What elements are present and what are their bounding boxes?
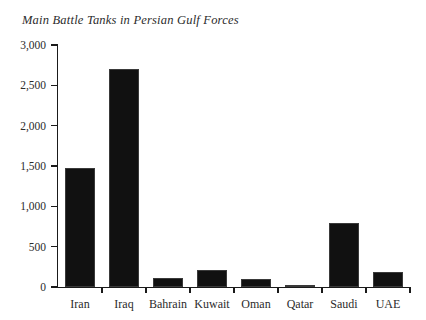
- chart-title: Main Battle Tanks in Persian Gulf Forces: [22, 13, 239, 28]
- y-tick-mark: [51, 246, 58, 247]
- bar-chart: Main Battle Tanks in Persian Gulf Forces…: [0, 0, 426, 320]
- y-tick-mark: [51, 125, 58, 126]
- y-tick-label: 1,500: [20, 160, 46, 172]
- bar-uae[interactable]: [373, 272, 404, 287]
- y-tick-label: 0: [40, 281, 46, 293]
- x-tick-mark: [189, 287, 190, 293]
- x-tick-mark: [321, 287, 322, 293]
- plot-area: [58, 45, 410, 287]
- x-tick-label-kuwait: Kuwait: [194, 297, 229, 312]
- y-tick-mark: [51, 286, 58, 287]
- x-tick-label-saudi: Saudi: [330, 297, 357, 312]
- x-tick-mark: [277, 287, 278, 293]
- x-tick-mark: [233, 287, 234, 293]
- y-tick-mark: [51, 85, 58, 86]
- y-tick-label: 3,000: [20, 39, 46, 51]
- x-tick-mark: [101, 287, 102, 293]
- bar-oman[interactable]: [241, 279, 272, 287]
- x-tick-label-uae: UAE: [376, 297, 401, 312]
- bar-saudi[interactable]: [329, 223, 360, 287]
- bar-bahrain[interactable]: [153, 278, 184, 287]
- y-tick-label: 2,500: [20, 79, 46, 91]
- y-tick-label: 500: [29, 241, 46, 253]
- y-tick-label: 2,000: [20, 120, 46, 132]
- x-tick-label-oman: Oman: [241, 297, 270, 312]
- x-tick-label-bahrain: Bahrain: [149, 297, 187, 312]
- x-tick-label-iraq: Iraq: [114, 297, 133, 312]
- bar-kuwait[interactable]: [197, 270, 228, 287]
- y-tick-mark: [51, 206, 58, 207]
- y-tick-mark: [51, 44, 58, 45]
- y-tick-mark: [51, 165, 58, 166]
- bar-qatar[interactable]: [285, 285, 316, 287]
- x-tick-label-qatar: Qatar: [287, 297, 314, 312]
- x-tick-mark: [145, 287, 146, 293]
- bar-iran[interactable]: [65, 168, 96, 287]
- bar-iraq[interactable]: [109, 69, 140, 287]
- x-tick-mark: [365, 287, 366, 293]
- x-tick-mark: [409, 287, 410, 293]
- x-tick-label-iran: Iran: [70, 297, 89, 312]
- y-tick-label: 1,000: [20, 200, 46, 212]
